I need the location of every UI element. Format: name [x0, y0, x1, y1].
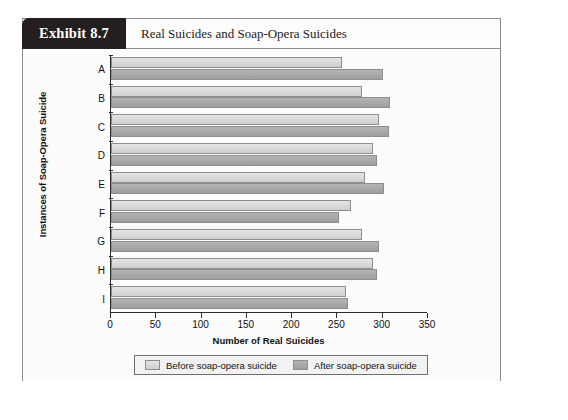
chart-legend: Before soap-opera suicideAfter soap-oper… — [134, 355, 428, 375]
bar-A-after — [111, 69, 383, 80]
legend-item-before: Before soap-opera suicide — [145, 360, 277, 371]
bar-I-after — [111, 298, 348, 309]
y-tick-label-G: G — [97, 236, 105, 247]
bar-B-before — [111, 86, 362, 97]
x-tick-mark — [427, 313, 428, 318]
plot-wrapper: ABCDEFGHI — [87, 55, 427, 313]
y-tick-label-D: D — [98, 150, 105, 161]
x-tick-mark — [155, 313, 156, 318]
y-tick-label-I: I — [102, 293, 105, 304]
legend-swatch-after — [293, 360, 308, 370]
x-tick-mark — [246, 313, 247, 318]
legend-item-after: After soap-opera suicide — [293, 360, 417, 371]
bar-H-after — [111, 269, 377, 280]
x-axis-ticks: 050100150200250300350 — [110, 313, 427, 337]
bar-G-before — [111, 229, 362, 240]
y-tick-label-C: C — [98, 121, 105, 132]
x-tick-label-50: 50 — [150, 319, 161, 330]
x-tick-mark — [336, 313, 337, 318]
bar-I-before — [111, 286, 346, 297]
bar-A-before — [111, 57, 342, 68]
legend-label-before: Before soap-opera suicide — [166, 360, 277, 371]
bar-E-before — [111, 172, 365, 183]
legend-swatch-before — [145, 360, 160, 370]
exhibit-number-label: Exhibit 8.7 — [39, 25, 109, 42]
y-axis-title: Instances of Soap-Opera Suicide — [37, 60, 48, 270]
x-tick-label-100: 100 — [192, 319, 209, 330]
bar-B-after — [111, 97, 390, 108]
x-tick-label-200: 200 — [283, 319, 300, 330]
x-axis-title: Number of Real Suicides — [110, 335, 427, 346]
legend-label-after: After soap-opera suicide — [314, 360, 417, 371]
y-tick-label-H: H — [98, 265, 105, 276]
x-tick-mark — [201, 313, 202, 318]
exhibit-number-tab: Exhibit 8.7 — [22, 18, 126, 49]
y-tick-label-F: F — [99, 207, 105, 218]
y-tick-label-A: A — [98, 64, 105, 75]
x-tick-mark — [291, 313, 292, 318]
x-tick-mark — [110, 313, 111, 318]
x-tick-label-350: 350 — [419, 319, 436, 330]
x-tick-mark — [382, 313, 383, 318]
bar-D-before — [111, 143, 373, 154]
x-tick-label-0: 0 — [107, 319, 113, 330]
y-axis-ticks: ABCDEFGHI — [87, 55, 109, 313]
bar-G-after — [111, 241, 379, 252]
exhibit-title: Real Suicides and Soap-Opera Suicides — [141, 19, 347, 49]
y-tick-label-E: E — [98, 179, 105, 190]
bar-E-after — [111, 183, 384, 194]
exhibit-header: Exhibit 8.7 Real Suicides and Soap-Opera… — [23, 19, 500, 49]
bar-F-before — [111, 200, 351, 211]
x-tick-label-150: 150 — [238, 319, 255, 330]
bar-F-after — [111, 212, 339, 223]
bar-H-before — [111, 258, 373, 269]
bar-C-after — [111, 126, 389, 137]
bar-D-after — [111, 155, 377, 166]
exhibit-frame: Exhibit 8.7 Real Suicides and Soap-Opera… — [22, 18, 501, 381]
plot-area — [110, 55, 427, 313]
y-tick-label-B: B — [98, 93, 105, 104]
bar-C-before — [111, 114, 379, 125]
x-tick-label-300: 300 — [373, 319, 390, 330]
x-tick-label-250: 250 — [328, 319, 345, 330]
chart-body: Instances of Soap-Opera Suicide ABCDEFGH… — [23, 49, 500, 381]
